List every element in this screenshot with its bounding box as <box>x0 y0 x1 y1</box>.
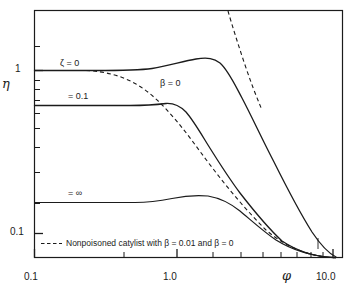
x-tick-label-1p0: 1.0 <box>163 271 177 282</box>
curve-zeta-0 <box>35 58 337 257</box>
plot-frame <box>35 11 343 258</box>
y-tick-label-0p1: 0.1 <box>10 226 24 237</box>
x-axis-ticks <box>35 249 334 258</box>
x-tick-label-10p0: 10.0 <box>316 271 335 282</box>
x-tick-label-0p1: 0.1 <box>24 271 38 282</box>
y-tick-label-1: 1 <box>15 63 21 74</box>
chart-figure: 1 0.1 η 0.1 1.0 10.0 φ ζ = 0 = 0.1 = ∞ β… <box>0 0 353 297</box>
y-axis-ticks <box>35 47 44 234</box>
annotation-zeta-infinity: = ∞ <box>68 188 82 198</box>
annotation-zeta-0p1: = 0.1 <box>68 91 88 101</box>
curve-zeta-infinity <box>35 196 334 258</box>
chart-canvas <box>0 0 353 297</box>
legend-label: Nonpoisoned catylist with β = 0.01 and β… <box>66 238 234 248</box>
curve-nonpoisoned-beta-0p01 <box>228 11 262 110</box>
annotation-beta-0: β = 0 <box>160 78 180 88</box>
y-axis-title: η <box>2 76 10 91</box>
curve-nonpoisoned-beta-0 <box>86 71 336 259</box>
annotation-zeta-0: ζ = 0 <box>60 58 79 68</box>
curve-zeta-0p1 <box>35 103 335 257</box>
x-axis-title: φ <box>282 268 291 283</box>
